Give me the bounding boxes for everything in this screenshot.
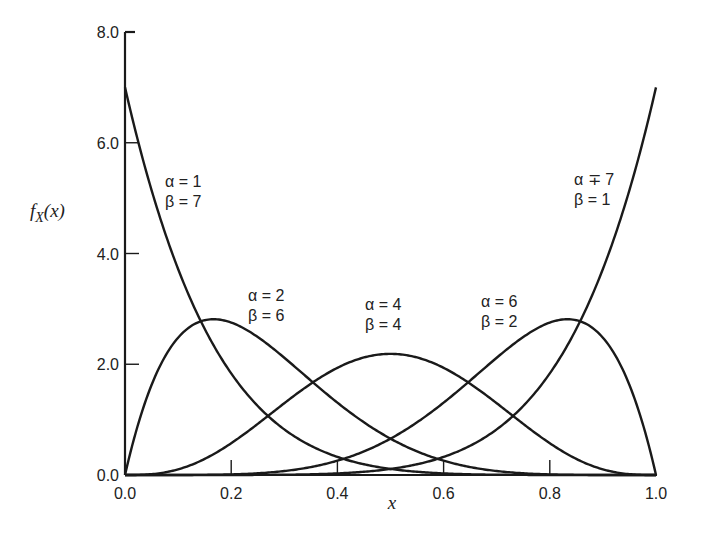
y-ticks-group: 0.02.04.06.08.0 [97, 24, 139, 484]
x-tick-label: 1.0 [645, 485, 667, 502]
curve-labels-group: α = 1β = 7α = 2β = 6α = 4β = 4α = 6β = 2… [165, 171, 614, 333]
x-tick-label: 0.6 [432, 485, 454, 502]
curve-label: α = 6 [481, 293, 517, 310]
x-axis-title: x [387, 492, 397, 513]
curve-label: α = 2 [248, 287, 284, 304]
curves-group [125, 87, 656, 475]
curve-label: β = 6 [248, 307, 284, 324]
beta-curve-a1-b7 [125, 87, 656, 475]
curve-label: α = 1 [165, 173, 201, 190]
curve-label: β = 4 [365, 316, 401, 333]
curve-label: β = 1 [574, 191, 610, 208]
y-tick-label: 0.0 [97, 467, 119, 484]
y-tick-label: 6.0 [97, 135, 119, 152]
curve-label: α ∓ 7 [574, 171, 614, 188]
beta-curve-a6-b2 [125, 319, 656, 475]
x-tick-label: 0.2 [220, 485, 242, 502]
y-axis-title: fX(x) [30, 200, 65, 225]
curve-label: β = 2 [481, 313, 517, 330]
curve-label: α = 4 [365, 296, 401, 313]
beta-distribution-chart: α = 1β = 7α = 2β = 6α = 4β = 4α = 6β = 2… [0, 0, 701, 536]
x-tick-label: 0.8 [539, 485, 561, 502]
beta-curve-a7-b1 [125, 87, 656, 475]
x-tick-label: 0.0 [114, 485, 136, 502]
y-tick-label: 8.0 [97, 24, 119, 41]
y-tick-label: 4.0 [97, 246, 119, 263]
y-tick-label: 2.0 [97, 356, 119, 373]
curve-label: β = 7 [165, 193, 201, 210]
beta-curve-a4-b4 [125, 354, 656, 475]
beta-curve-a2-b6 [125, 319, 656, 475]
x-tick-label: 0.4 [326, 485, 348, 502]
